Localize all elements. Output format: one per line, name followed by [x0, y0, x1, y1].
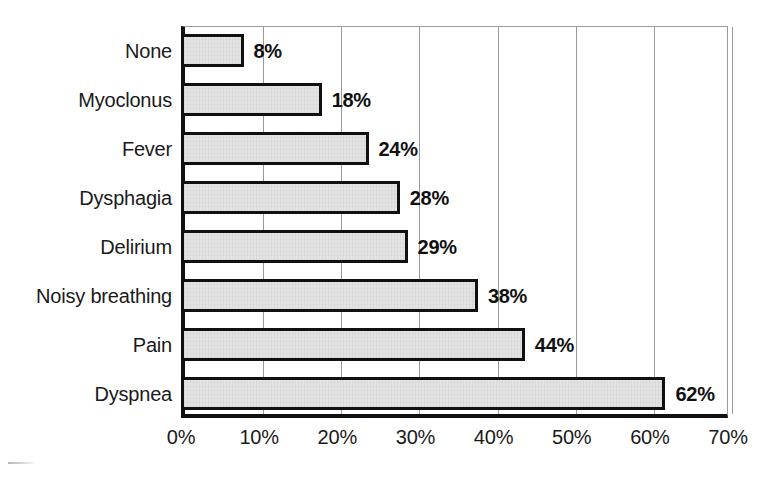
bar[interactable] [181, 377, 665, 410]
category-label: None [0, 39, 172, 62]
bar-fill-texture [184, 331, 522, 358]
bar-row [181, 377, 728, 410]
bar[interactable] [181, 279, 478, 312]
bar[interactable] [181, 132, 369, 165]
category-label: Pain [0, 333, 172, 356]
x-axis-tick-label: 50% [552, 426, 591, 449]
bar[interactable] [181, 181, 400, 214]
x-axis-tick-label: 40% [474, 426, 513, 449]
bar-row [181, 279, 728, 312]
bar-fill-texture [184, 184, 397, 211]
bar-row [181, 83, 728, 116]
bar[interactable] [181, 34, 244, 67]
x-axis-tick-label: 0% [167, 426, 196, 449]
bar-fill-texture [184, 380, 662, 407]
bar-fill-texture [184, 233, 405, 260]
bar-value-label: 8% [254, 39, 282, 62]
category-label: Noisy breathing [0, 284, 172, 307]
bar-value-label: 38% [488, 284, 527, 307]
x-axis-tick-label: 20% [318, 426, 357, 449]
bar-row [181, 328, 728, 361]
bar-row [181, 181, 728, 214]
bar-value-label: 62% [675, 382, 714, 405]
category-label: Delirium [0, 235, 172, 258]
bar-value-label: 29% [418, 235, 457, 258]
bar-row [181, 132, 728, 165]
bar-value-label: 44% [535, 333, 574, 356]
x-axis-tick-label: 10% [239, 426, 278, 449]
category-label: Fever [0, 137, 172, 160]
category-axis-labels: NoneMyoclonusFeverDysphagiaDeliriumNoisy… [0, 26, 172, 418]
bars-layer: 8%18%24%28%29%38%44%62% [181, 26, 728, 418]
x-axis-tick-label: 70% [708, 426, 747, 449]
x-axis-tick-label: 30% [396, 426, 435, 449]
bar[interactable] [181, 328, 525, 361]
bar-chart: 8%18%24%28%29%38%44%62% NoneMyoclonusFev… [0, 0, 764, 477]
gridline [732, 27, 733, 414]
bar-value-label: 28% [410, 186, 449, 209]
scan-artifact [8, 462, 34, 464]
category-label: Dysphagia [0, 186, 172, 209]
bar-fill-texture [184, 86, 319, 113]
bar-value-label: 24% [379, 137, 418, 160]
bar-fill-texture [184, 37, 241, 64]
x-axis-tick-label: 60% [630, 426, 669, 449]
category-label: Myoclonus [0, 88, 172, 111]
bar-fill-texture [184, 135, 366, 162]
bar[interactable] [181, 230, 408, 263]
bar-fill-texture [184, 282, 475, 309]
bar[interactable] [181, 83, 322, 116]
bar-value-label: 18% [332, 88, 371, 111]
category-label: Dyspnea [0, 382, 172, 405]
